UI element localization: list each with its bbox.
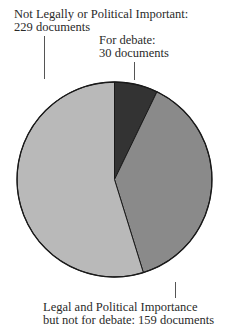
pie-slices	[17, 82, 212, 277]
slice-label-debate: For debate: 30 documents	[99, 34, 169, 60]
slice-label-not-legal: Not Legally or Political Important: 229 …	[14, 8, 188, 34]
slice-label-debate-count: 30 documents	[99, 47, 169, 60]
slice-label-legal: Legal and Political Importance but not f…	[43, 301, 214, 327]
slice-label-legal-count: but not for debate: 159 documents	[43, 314, 214, 327]
